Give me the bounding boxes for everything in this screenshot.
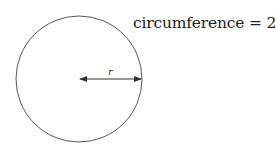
formula-coefficient: 2 (266, 14, 276, 32)
circumference-formula: circumference = 2πr (133, 14, 276, 32)
radius-label: r (108, 66, 114, 77)
formula-equals: = (249, 14, 262, 32)
formula-label: circumference (133, 14, 244, 32)
